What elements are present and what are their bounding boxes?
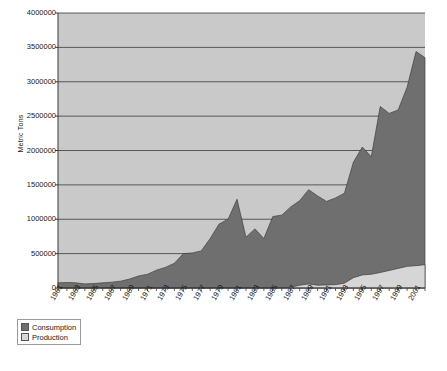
legend-item: Consumption (21, 322, 76, 332)
x-tick-label: 1981 (228, 284, 243, 302)
x-tick-label: 1993 (336, 284, 351, 302)
area-chart: Metric Tons 0500000100000015000002000000… (0, 0, 447, 371)
legend-label: Production (32, 333, 68, 342)
x-tick-label: 1989 (300, 284, 315, 302)
legend-label: Consumption (32, 323, 76, 332)
x-tick-label: 1975 (174, 284, 189, 302)
x-tick-label: 1977 (192, 284, 207, 302)
x-tick-label: 1987 (282, 284, 297, 302)
x-axis-tick-labels: 1961196319651967196919711973197519771979… (0, 0, 447, 371)
x-tick-label: 1999 (389, 284, 404, 302)
x-tick-label: 1969 (121, 284, 136, 302)
x-tick-label: 2001 (407, 284, 422, 302)
x-tick-label: 1991 (318, 284, 333, 302)
x-tick-label: 1979 (210, 284, 225, 302)
legend-swatch-icon (21, 333, 29, 341)
x-tick-label: 1973 (156, 284, 171, 302)
x-tick-label: 1965 (85, 284, 100, 302)
x-tick-label: 1995 (353, 284, 368, 302)
x-tick-label: 1971 (139, 284, 154, 302)
legend-item: Production (21, 332, 76, 342)
legend-swatch-icon (21, 323, 29, 331)
x-tick-label: 1997 (371, 284, 386, 302)
chart-legend: ConsumptionProduction (17, 319, 81, 345)
x-tick-label: 1963 (67, 284, 82, 302)
x-tick-label: 1961 (49, 284, 64, 302)
x-tick-label: 1967 (103, 284, 118, 302)
x-tick-label: 1983 (246, 284, 261, 302)
x-tick-label: 1985 (264, 284, 279, 302)
